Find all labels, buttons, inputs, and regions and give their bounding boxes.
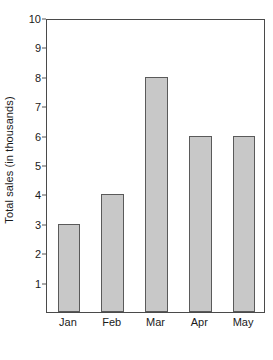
bar-mar <box>145 77 168 312</box>
bar-feb <box>101 194 124 312</box>
y-tick-label: 6 <box>35 131 41 143</box>
y-tick-label: 8 <box>35 72 41 84</box>
y-tick-label: 10 <box>29 13 41 25</box>
x-tick-label: May <box>233 316 254 328</box>
bar-apr <box>189 136 212 312</box>
bars-layer <box>47 20 264 312</box>
y-tick-label: 2 <box>35 248 41 260</box>
x-tick-label: Jan <box>59 316 77 328</box>
y-tick-label: 9 <box>35 42 41 54</box>
y-tick-label: 3 <box>35 219 41 231</box>
bar-may <box>233 136 256 312</box>
y-axis-title: Total sales (in thousands) <box>0 0 18 320</box>
plot-area <box>46 19 265 313</box>
x-tick-label: Apr <box>191 316 208 328</box>
y-tick-label: 1 <box>35 278 41 290</box>
bar-jan <box>58 224 81 312</box>
x-tick-label: Feb <box>102 316 121 328</box>
bar-chart: Total sales (in thousands) 12345678910 J… <box>0 0 273 360</box>
y-axis-title-text: Total sales (in thousands) <box>3 96 15 223</box>
x-axis-tick-labels: JanFebMarAprMay <box>46 316 265 336</box>
y-tick-label: 4 <box>35 189 41 201</box>
y-tick-label: 7 <box>35 101 41 113</box>
y-tick-label: 5 <box>35 160 41 172</box>
x-tick-label: Mar <box>146 316 165 328</box>
y-axis-tick-labels: 12345678910 <box>18 0 46 360</box>
